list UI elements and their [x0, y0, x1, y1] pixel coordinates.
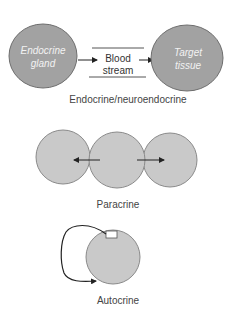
paracrine-section: Paracrine	[36, 130, 197, 210]
paracrine-left-cell	[36, 130, 90, 184]
signaling-diagram: Endocrine gland Blood stream Target tiss…	[0, 0, 237, 325]
blood-stream-label-line2: stream	[103, 65, 134, 76]
endocrine-gland-shape	[9, 24, 77, 88]
autocrine-section: Autocrine	[61, 226, 140, 307]
endocrine-gland-label-line2: gland	[31, 58, 56, 69]
endocrine-caption: Endocrine/neuroendocrine	[69, 94, 187, 105]
autocrine-receptor	[106, 231, 117, 238]
autocrine-caption: Autocrine	[97, 295, 140, 306]
endocrine-gland-label-line1: Endocrine	[20, 45, 65, 56]
paracrine-caption: Paracrine	[97, 199, 140, 210]
endocrine-section: Endocrine gland Blood stream Target tiss…	[9, 24, 223, 105]
target-tissue-label-line1: Target	[174, 47, 203, 58]
blood-stream-label-line1: Blood	[105, 53, 131, 64]
target-tissue-shape	[151, 25, 223, 91]
target-tissue-label-line2: tissue	[175, 60, 202, 71]
